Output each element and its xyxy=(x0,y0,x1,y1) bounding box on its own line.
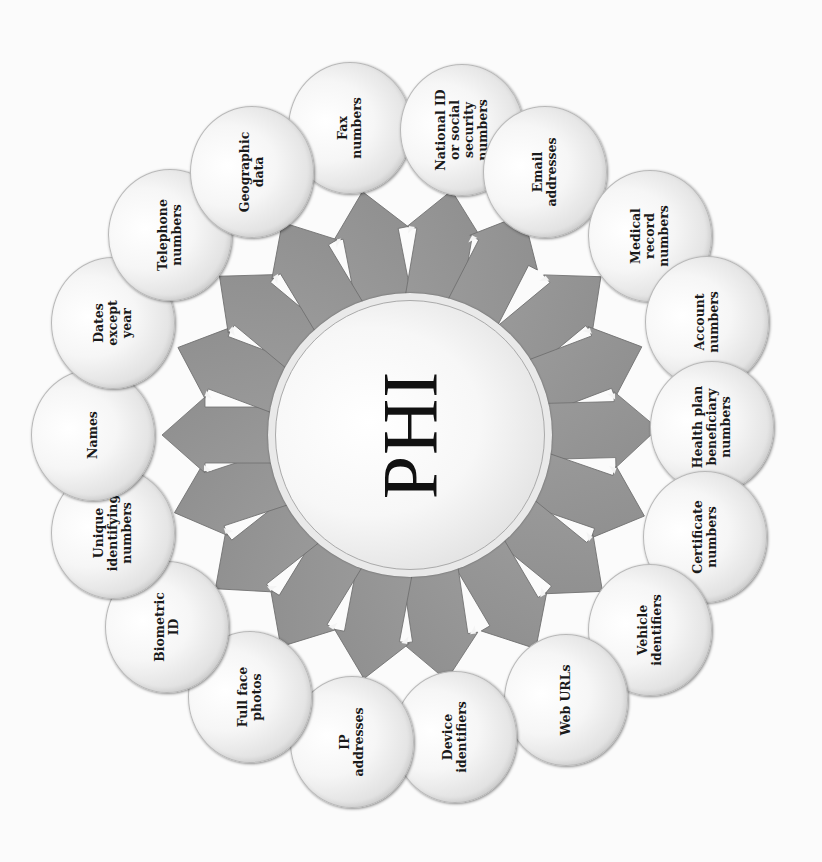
phi-diagram: PHI Fax numbers National ID or social se… xyxy=(0,0,822,862)
bubble-names: Names xyxy=(31,369,155,501)
bubble-label: Device identifiers xyxy=(441,682,469,792)
bubble-web-urls: Web URLs xyxy=(504,634,628,766)
bubble-label: Biometric ID xyxy=(153,572,181,682)
bubble-label: Telephone numbers xyxy=(156,180,184,290)
bubble-label: Web URLs xyxy=(559,645,573,755)
bubble-label: Dates except year xyxy=(92,268,134,378)
bubble-label: Full face photos xyxy=(236,642,264,752)
bubble-label: Geographic data xyxy=(238,117,266,227)
bubble-email-addresses: Email addresses xyxy=(483,106,607,238)
bubble-label: Fax numbers xyxy=(336,73,364,183)
bubble-geographic-data: Geographic data xyxy=(190,106,314,238)
center-circle: PHI xyxy=(275,300,545,570)
bubble-label: Health plan beneficiary numbers xyxy=(691,372,733,482)
center-title: PHI xyxy=(371,371,449,500)
arrow-icon xyxy=(162,397,275,473)
bubble-label: National ID or social security numbers xyxy=(434,75,490,185)
bubble-label: IP addresses xyxy=(338,687,366,797)
bubble-label: Certificate numbers xyxy=(691,482,719,592)
bubble-label: Names xyxy=(86,380,100,490)
bubble-label: Vehicle identifiers xyxy=(636,575,664,685)
bubble-label: Email addresses xyxy=(531,117,559,227)
